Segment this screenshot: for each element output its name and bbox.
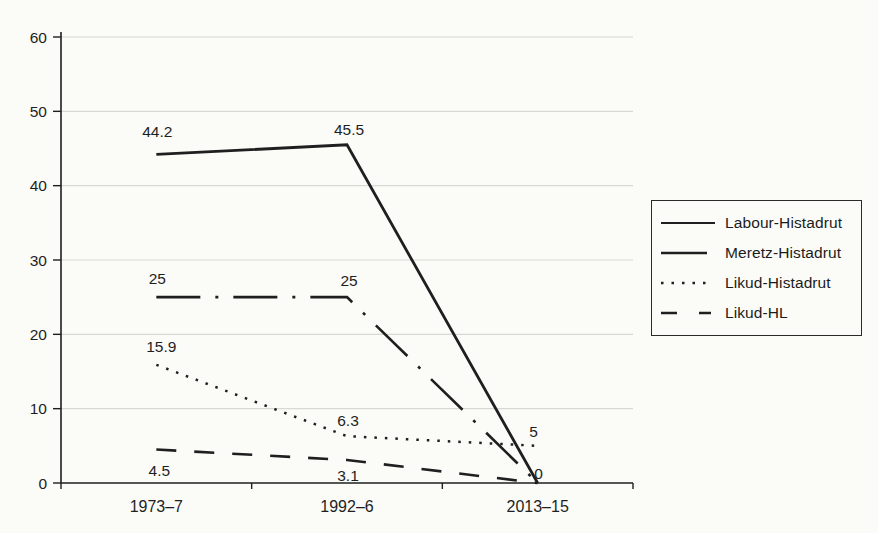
svg-text:3.1: 3.1 xyxy=(337,467,359,484)
legend-label: Meretz-Histadrut xyxy=(725,244,841,262)
svg-text:5: 5 xyxy=(529,423,538,440)
svg-text:44.2: 44.2 xyxy=(142,123,172,140)
svg-text:40: 40 xyxy=(30,177,48,194)
svg-text:0: 0 xyxy=(534,465,543,482)
legend-item-likud-hl: Likud-HL xyxy=(658,299,855,328)
scanned-chart-page: 01020304050601973–71992–62013–1544.245.5… xyxy=(0,0,878,533)
svg-text:50: 50 xyxy=(30,103,48,120)
legend-label: Labour-Histadrut xyxy=(725,214,842,232)
svg-text:10: 10 xyxy=(30,400,48,417)
svg-text:30: 30 xyxy=(30,252,48,269)
chart-legend: Labour-Histadrut Meretz-Histadrut Likud-… xyxy=(651,200,862,336)
legend-item-labour-histadrut: Labour-Histadrut xyxy=(658,208,855,237)
svg-text:15.9: 15.9 xyxy=(146,338,176,355)
svg-text:1973–7: 1973–7 xyxy=(130,498,183,515)
legend-label: Likud-HL xyxy=(725,304,788,322)
svg-text:25: 25 xyxy=(340,272,357,289)
svg-text:25: 25 xyxy=(149,270,166,287)
legend-item-likud-histadrut: Likud-Histadrut xyxy=(658,269,855,298)
svg-text:2013–15: 2013–15 xyxy=(507,498,569,515)
legend-item-meretz-histadrut: Meretz-Histadrut xyxy=(658,238,855,267)
svg-text:45.5: 45.5 xyxy=(334,121,364,138)
legend-label: Likud-Histadrut xyxy=(725,274,831,292)
svg-text:4.5: 4.5 xyxy=(149,462,171,479)
svg-text:0: 0 xyxy=(38,475,47,492)
dashed-line-swatch-icon xyxy=(658,303,718,323)
svg-text:6.3: 6.3 xyxy=(337,412,359,429)
dotted-line-swatch-icon xyxy=(658,273,718,293)
svg-text:60: 60 xyxy=(30,29,48,46)
svg-text:1992–6: 1992–6 xyxy=(320,498,373,515)
dashdot-line-swatch-icon xyxy=(658,243,718,263)
solid-line-swatch-icon xyxy=(658,213,718,233)
svg-text:20: 20 xyxy=(30,326,48,343)
